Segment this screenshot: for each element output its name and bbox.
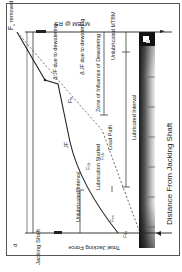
- x-axis-label: Distance From Jacking Shaft: [165, 122, 174, 225]
- delta-jf-label-2: Δ JF due to dewatering: [79, 19, 85, 75]
- zone-of-influence-label: Zone of Influence of Dewatering: [95, 34, 101, 112]
- unlubricated-interval-label: Unlubricated Interval: [75, 172, 81, 222]
- jacking-force-diagram: Fs removed at RS MTBM @ RS Δ JF due to d…: [0, 0, 182, 272]
- unlubricated-mtbm-label: Unlubricated MTBM: [110, 11, 116, 60]
- f-removed-label: Fs: [7, 24, 16, 30]
- panel-label: d: [12, 244, 18, 247]
- jacking-shaft-label: Jacking Shaft: [35, 229, 41, 265]
- delta-jf-label-1: Δ JF due to dewatering: [52, 24, 58, 80]
- load-path-label: Load Path: [107, 125, 113, 150]
- f-ss-label: FSs: [122, 231, 128, 238]
- jf-label: JF: [63, 141, 69, 148]
- lubricated-interval-label: Lubricated Interval: [131, 95, 137, 140]
- total-jacking-force-label: Total Jacking Force: [68, 245, 120, 251]
- f-fp-label: Ffp: [67, 97, 73, 103]
- f-ub-label: FUb: [85, 162, 91, 170]
- f-sn-label: Fsn: [109, 215, 115, 222]
- lubrication-started-label: Lubrication Started: [95, 144, 101, 190]
- pipe-string: [139, 32, 155, 248]
- removed-at-rs-label: removed at RS: [8, 0, 14, 22]
